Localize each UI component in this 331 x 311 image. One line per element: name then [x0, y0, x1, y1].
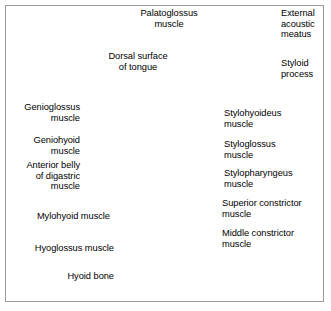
- label-palatoglossus: Palatoglossus muscle: [122, 8, 216, 29]
- label-dorsal-surface-tongue: Dorsal surface of tongue: [93, 51, 183, 72]
- label-mylohyoid: Mylohyoid muscle: [2, 211, 110, 222]
- label-hyoid-bone: Hyoid bone: [2, 271, 114, 282]
- anatomy-figure: Palatoglossus muscleExternal acoustic me…: [0, 0, 331, 311]
- label-middle-constrictor: Middle constrictor muscle: [222, 228, 330, 249]
- label-anterior-belly-digastric: Anterior belly of digastric muscle: [2, 160, 80, 192]
- label-stylopharyngeus: Stylopharyngeus muscle: [224, 168, 329, 189]
- label-genioglossus: Genioglossus muscle: [2, 102, 80, 123]
- label-hyoglossus: Hyoglossus muscle: [2, 243, 114, 254]
- label-styloid-process: Styloid process: [281, 58, 331, 79]
- label-styloglossus: Styloglossus muscle: [224, 139, 329, 160]
- label-stylohyoideus: Stylohyoideus muscle: [224, 108, 329, 129]
- label-external-acoustic-meatus: External acoustic meatus: [281, 8, 331, 40]
- label-superior-constrictor: Superior constrictor muscle: [222, 198, 330, 219]
- label-geniohyoid: Geniohyoid muscle: [2, 135, 80, 156]
